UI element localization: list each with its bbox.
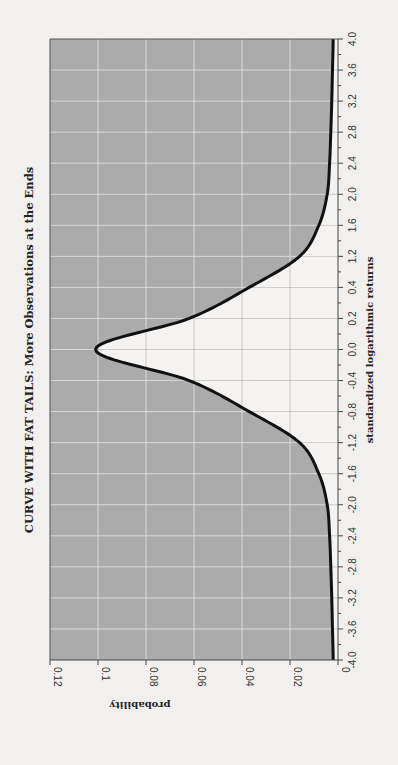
x-tick-label: 3.6: [347, 63, 358, 77]
y-tick-label: 0: [340, 667, 351, 673]
x-tick-label: 2.4: [347, 156, 358, 170]
x-tick-label: -2.4: [347, 527, 358, 545]
x-tick-label: 2.0: [347, 187, 358, 201]
y-tick-label: 0.1: [100, 667, 111, 681]
x-tick-label: -0.4: [347, 371, 358, 389]
x-tick-label: 0.4: [347, 280, 358, 294]
y-tick-label: 0.02: [292, 667, 303, 687]
x-tick-label: -4.0: [347, 651, 358, 669]
x-tick-label: 4.0: [347, 32, 358, 46]
y-axis-title: probability: [108, 700, 170, 711]
x-tick-label: -2.8: [347, 558, 358, 576]
chart-title: CURVE WITH FAT TAILS: More Observations …: [22, 167, 36, 533]
x-axis-title: standardized logarithmic returns: [364, 256, 375, 443]
x-tick-label: -3.6: [347, 620, 358, 638]
x-tick-label: -0.8: [347, 403, 358, 421]
y-tick-label: 0.04: [244, 667, 255, 687]
x-tick-label: -2.0: [347, 496, 358, 514]
y-tick-label: 0.12: [52, 667, 63, 687]
y-tick-label: 0.08: [148, 667, 159, 687]
x-tick-label: 0.2: [347, 311, 358, 325]
y-tick-label: 0.06: [196, 667, 207, 687]
x-tick-label: 1.6: [347, 218, 358, 232]
x-tick-label: 0.0: [347, 342, 358, 356]
y-axis-ticks: 0.120.10.080.060.040.020: [50, 660, 351, 687]
x-tick-label: -1.2: [347, 434, 358, 452]
x-tick-label: -3.2: [347, 589, 358, 607]
chart: 4.03.63.22.82.42.01.61.20.40.20.0-0.4-0.…: [0, 0, 398, 765]
x-tick-label: 1.2: [347, 249, 358, 263]
x-tick-label: -1.6: [347, 465, 358, 483]
x-tick-label: 3.2: [347, 94, 358, 108]
x-axis-ticks: 4.03.63.22.82.42.01.61.20.40.20.0-0.4-0.…: [338, 32, 358, 669]
x-tick-label: 2.8: [347, 125, 358, 139]
